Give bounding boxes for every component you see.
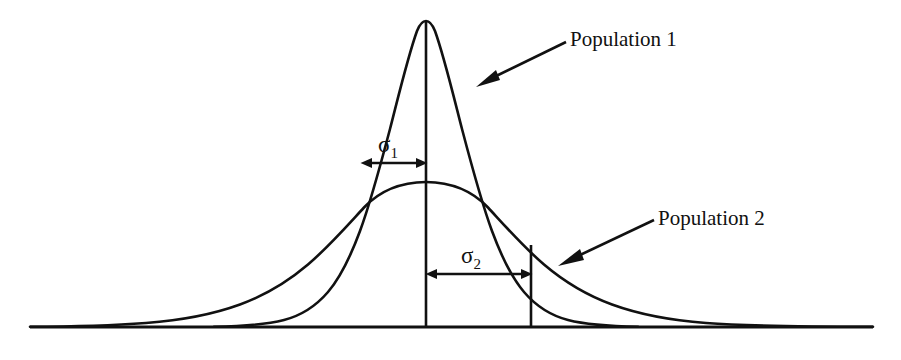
sigma2-label: σ2 [461, 243, 481, 272]
sigma1-glyph: σ [378, 132, 391, 157]
population2-label: Population 2 [658, 206, 765, 230]
sigma1-label: σ1 [378, 132, 398, 161]
sigma2-subscript: 2 [473, 256, 481, 272]
sigma2-glyph: σ [461, 243, 474, 268]
population2-leader-line [578, 220, 654, 256]
population1-leader-line [492, 42, 566, 78]
sigma1-subscript: 1 [390, 145, 398, 161]
population2-arrow-head [558, 249, 584, 266]
population1-arrow-head [476, 70, 500, 87]
population2-curve [30, 182, 873, 327]
statistics-figure: σ1 σ2 Population 1 Population 2 [0, 0, 901, 360]
population1-label: Population 1 [570, 27, 677, 51]
distribution-chart-svg: σ1 σ2 Population 1 Population 2 [0, 0, 901, 360]
